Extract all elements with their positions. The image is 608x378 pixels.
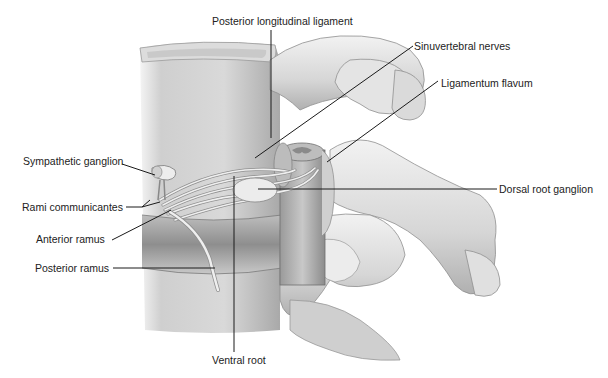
label-sinuvertebral-nerves: Sinuvertebral nerves bbox=[414, 40, 510, 52]
label-sympathetic-ganglion: Sympathetic ganglion bbox=[23, 155, 123, 167]
label-anterior-ramus: Anterior ramus bbox=[36, 233, 105, 245]
label-ventral-root: Ventral root bbox=[212, 354, 266, 366]
spinal-cord bbox=[274, 143, 334, 285]
label-dorsal-root-ganglion: Dorsal root ganglion bbox=[499, 183, 593, 195]
label-posterior-ramus: Posterior ramus bbox=[35, 262, 109, 274]
label-rami-communicantes: Rami communicantes bbox=[22, 201, 123, 213]
dorsal-root-ganglion-shape bbox=[233, 178, 277, 202]
label-ligamentum-flavum: Ligamentum flavum bbox=[441, 77, 533, 89]
anatomy-diagram: Posterior longitudinal ligament Sinuvert… bbox=[0, 0, 608, 378]
label-posterior-longitudinal-ligament: Posterior longitudinal ligament bbox=[212, 15, 353, 27]
